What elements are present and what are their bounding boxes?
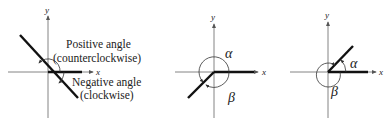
y-axis-label: y — [44, 5, 49, 15]
y-axis-label: y — [210, 12, 215, 22]
alpha-label: α — [350, 56, 358, 71]
beta-arc — [206, 72, 229, 87]
x-axis-label: x — [378, 67, 383, 77]
alpha-arc — [341, 60, 346, 72]
positive-angle-label: Positive angle — [66, 38, 131, 51]
terminal-side — [188, 72, 214, 98]
beta-label: β — [227, 90, 235, 105]
y-axis-label: y — [324, 10, 329, 20]
negative-angle-direction: (clockwise) — [80, 89, 134, 102]
positive-angle-direction: (counterclockwise) — [53, 52, 141, 65]
panel-positive-negative-angle: x y Positive angle (counterclockwise) Ne… — [8, 5, 141, 118]
alpha-label: α — [225, 46, 233, 61]
panel-coterminal-alpha-beta: x y α β — [175, 12, 266, 118]
x-axis-label: x — [261, 67, 266, 77]
panel-coterminal-positive-negative: x y α β — [290, 10, 383, 118]
negative-angle-label: Negative angle — [72, 76, 141, 89]
angle-diagrams: x y Positive angle (counterclockwise) Ne… — [0, 0, 388, 125]
beta-label: β — [330, 84, 338, 99]
